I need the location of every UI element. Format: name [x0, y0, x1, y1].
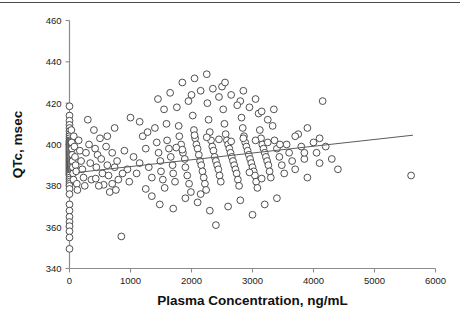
data-point: [179, 79, 186, 86]
data-point: [161, 185, 168, 192]
data-point: [202, 180, 209, 187]
data-point: [153, 139, 160, 146]
y-tick-label: 360: [46, 222, 62, 233]
data-point: [228, 138, 235, 145]
data-point: [163, 120, 170, 127]
data-point: [112, 187, 119, 194]
data-point: [66, 103, 73, 110]
data-point: [228, 92, 235, 99]
y-tick-label: 440: [46, 56, 62, 67]
data-point: [203, 71, 210, 78]
data-point: [109, 180, 116, 187]
data-point: [175, 123, 182, 130]
data-point: [216, 172, 223, 179]
data-point: [252, 96, 259, 103]
data-point: [215, 166, 222, 173]
data-point: [104, 162, 111, 169]
data-point: [204, 100, 211, 107]
data-point: [184, 172, 191, 179]
data-point: [115, 176, 122, 183]
data-point: [276, 154, 283, 161]
data-point: [118, 233, 125, 240]
figure-container: 3403603804004204404600100020003000400050…: [0, 0, 460, 323]
data-point: [408, 172, 415, 179]
data-point: [261, 201, 268, 208]
data-point: [313, 149, 320, 156]
data-point: [270, 106, 277, 113]
data-point: [267, 174, 274, 181]
data-point: [237, 197, 244, 204]
data-point: [167, 154, 174, 161]
data-point: [144, 129, 151, 136]
data-point: [109, 149, 116, 156]
data-point: [126, 178, 133, 185]
data-point: [220, 106, 227, 113]
data-point: [78, 158, 85, 165]
y-tick-label: 420: [46, 98, 62, 109]
data-point: [209, 85, 216, 92]
data-point: [176, 133, 183, 140]
data-point: [265, 162, 272, 169]
data-point: [319, 98, 326, 105]
data-point: [264, 139, 271, 146]
data-point: [286, 149, 293, 156]
scatter-plot: 3403603804004204404600100020003000400050…: [0, 0, 460, 323]
x-tick-label: 0: [67, 275, 72, 286]
y-tick-label: 400: [46, 139, 62, 150]
data-point: [158, 168, 165, 175]
data-point: [238, 114, 245, 121]
x-tick-label: 6000: [425, 275, 446, 286]
data-point: [221, 120, 228, 127]
data-point: [179, 146, 186, 153]
data-point: [203, 134, 210, 141]
x-tick-label: 1000: [120, 275, 141, 286]
data-point: [142, 186, 149, 193]
data-point: [105, 172, 112, 179]
data-point: [152, 125, 159, 132]
data-point: [173, 104, 180, 111]
data-point: [189, 112, 196, 119]
data-point: [148, 174, 155, 181]
data-point: [185, 98, 192, 105]
data-point: [194, 199, 201, 206]
data-point: [181, 156, 188, 163]
data-point: [172, 178, 179, 185]
data-point: [240, 135, 247, 142]
data-point: [222, 131, 229, 138]
data-point: [186, 180, 193, 187]
data-point: [197, 191, 204, 198]
data-point: [194, 145, 201, 152]
data-point: [170, 205, 177, 212]
x-tick-label: 4000: [303, 275, 324, 286]
data-point: [233, 170, 240, 177]
data-point: [274, 195, 281, 202]
data-point: [269, 123, 276, 130]
data-point: [104, 133, 111, 140]
data-point: [136, 118, 143, 125]
data-point: [155, 96, 162, 103]
data-point: [217, 178, 224, 185]
data-point: [198, 162, 205, 169]
y-tick-label: 460: [46, 15, 62, 26]
data-point: [148, 193, 155, 200]
data-point: [289, 158, 296, 165]
data-point: [210, 147, 217, 154]
data-point: [298, 143, 305, 150]
data-point: [301, 149, 308, 156]
data-point: [304, 125, 311, 132]
data-point: [92, 175, 99, 182]
data-point: [127, 114, 134, 121]
data-point: [121, 147, 128, 154]
data-point: [266, 168, 273, 175]
data-point: [258, 175, 265, 182]
data-point: [283, 141, 290, 148]
data-point: [335, 166, 342, 173]
data-point: [310, 139, 317, 146]
data-point: [195, 151, 202, 158]
data-point: [206, 207, 213, 214]
data-point: [249, 211, 256, 218]
data-point: [81, 182, 88, 189]
data-point: [234, 176, 241, 183]
data-point: [73, 180, 80, 187]
data-point: [316, 135, 323, 142]
